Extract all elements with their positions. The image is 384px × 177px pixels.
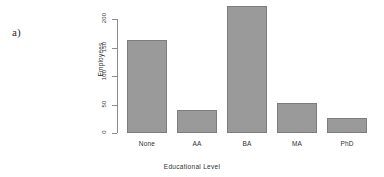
bar bbox=[177, 110, 217, 133]
figure-panel: a) Employees 050100150200 NoneAABAMAPhD … bbox=[0, 0, 384, 177]
bar bbox=[277, 103, 317, 133]
x-axis-title: Educational Level bbox=[0, 163, 384, 170]
x-axis-tick-label: PhD bbox=[317, 140, 377, 147]
bar bbox=[127, 40, 167, 133]
bar-series bbox=[0, 0, 384, 177]
bar bbox=[327, 118, 367, 133]
bar-chart: Employees 050100150200 NoneAABAMAPhD Edu… bbox=[0, 0, 384, 177]
bar bbox=[227, 6, 267, 133]
